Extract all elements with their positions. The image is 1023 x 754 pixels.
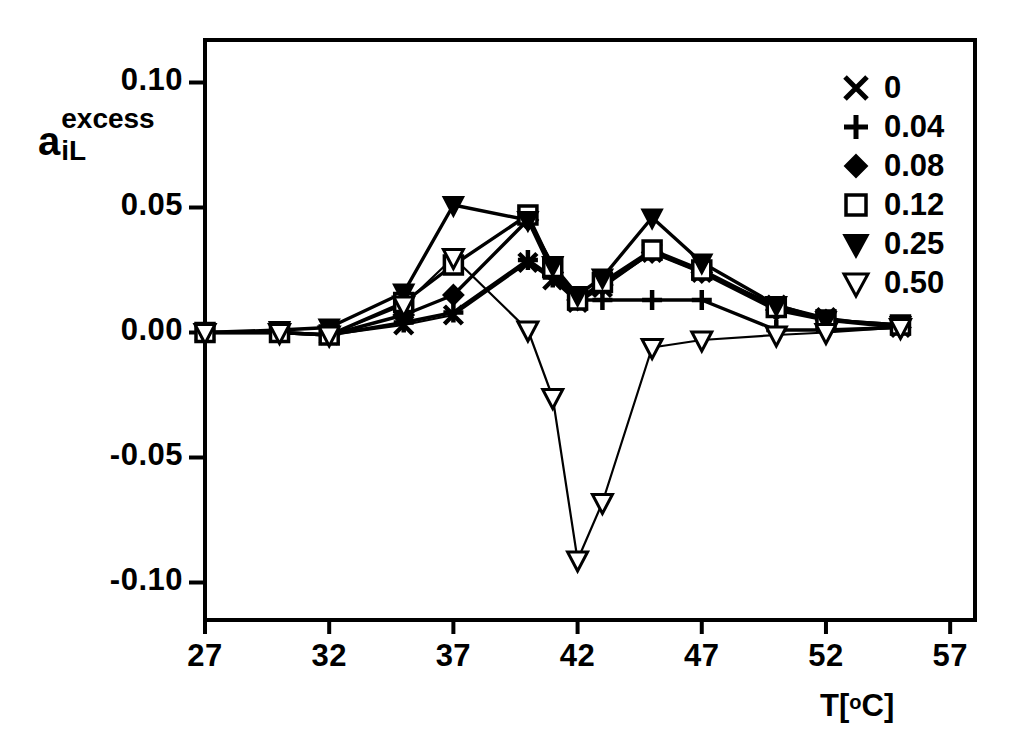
y-tick-label--0-10: -0.10 [0,562,183,598]
y-tick-label-0-05: 0.05 [0,187,183,223]
legend-entry-0.08[interactable]: 0.08 [838,146,998,185]
y-axis-label-base: a [38,119,60,163]
series-markers [195,197,910,571]
x-tick-label-42: 42 [533,638,623,674]
data-point-0.50-41 [543,390,563,409]
y-tick-label--0-05: -0.05 [0,437,183,473]
filled-diamond-marker [845,155,867,177]
x-axis-ticks [205,620,950,634]
x-tick-label-32: 32 [284,638,374,674]
plus-marker [844,115,868,139]
legend-filled-triangle-down-marker [838,226,874,262]
legend-filled-diamond-marker [838,148,874,184]
data-point-0.50-40 [518,322,538,341]
legend-entry-0.12[interactable]: 0.12 [838,185,998,224]
legend-entry-0.50[interactable]: 0.50 [838,263,998,302]
legend-x-marker [838,70,874,106]
open-square-marker [846,195,866,215]
legend-label-0.04: 0.04 [884,109,944,145]
x-tick-label-52: 52 [781,638,871,674]
y-tick-label-0-00: 0.00 [0,312,183,348]
open-triangle-down-marker [844,274,868,296]
legend-open-square-marker [838,187,874,223]
x-axis-label: T[oC] [820,688,894,724]
x-tick-label-57: 57 [905,638,995,674]
legend-plus-marker [838,109,874,145]
data-point-0.50-43 [592,495,612,514]
filled-triangle-down-marker [844,235,868,257]
x-axis-unit-celsius: C [861,688,883,723]
legend-label-0.25: 0.25 [884,226,944,262]
x-tick-label-27: 27 [160,638,250,674]
legend-entry-0.04[interactable]: 0.04 [838,107,998,146]
y-axis-label-subscript: iL [61,137,154,165]
x-tick-label-37: 37 [408,638,498,674]
x-tick-label-47: 47 [657,638,747,674]
y-axis-label-superscript: excess [61,105,154,133]
y-tick-label-0-10: 0.10 [0,62,183,98]
legend-label-0: 0 [884,70,901,106]
x-axis-unit-bracket-close: ] [884,688,894,723]
x-axis-label-symbol: T [820,688,839,723]
data-point-0.50-52 [816,325,836,344]
data-point-0.04-45 [642,290,662,310]
legend-label-0.08: 0.08 [884,148,944,184]
legend: 00.040.080.120.250.50 [838,68,998,302]
legend-open-triangle-down-marker [838,265,874,301]
chart-figure: aexcessiL T[oC] 00.040.080.120.250.50 27… [0,0,1023,754]
x-marker [845,77,867,99]
data-point-0.04-47 [692,290,712,310]
y-axis-label: aexcessiL [38,118,155,174]
legend-label-0.12: 0.12 [884,187,944,223]
legend-entry-0.25[interactable]: 0.25 [838,224,998,263]
data-point-0.12-45 [643,241,661,259]
data-point-0.50-45 [642,340,662,359]
degree-symbol: o [849,691,861,713]
data-point-0.50-42 [568,552,588,571]
x-axis-unit-bracket-open: [ [839,688,849,723]
legend-entry-0[interactable]: 0 [838,68,998,107]
legend-label-0.50: 0.50 [884,265,944,301]
